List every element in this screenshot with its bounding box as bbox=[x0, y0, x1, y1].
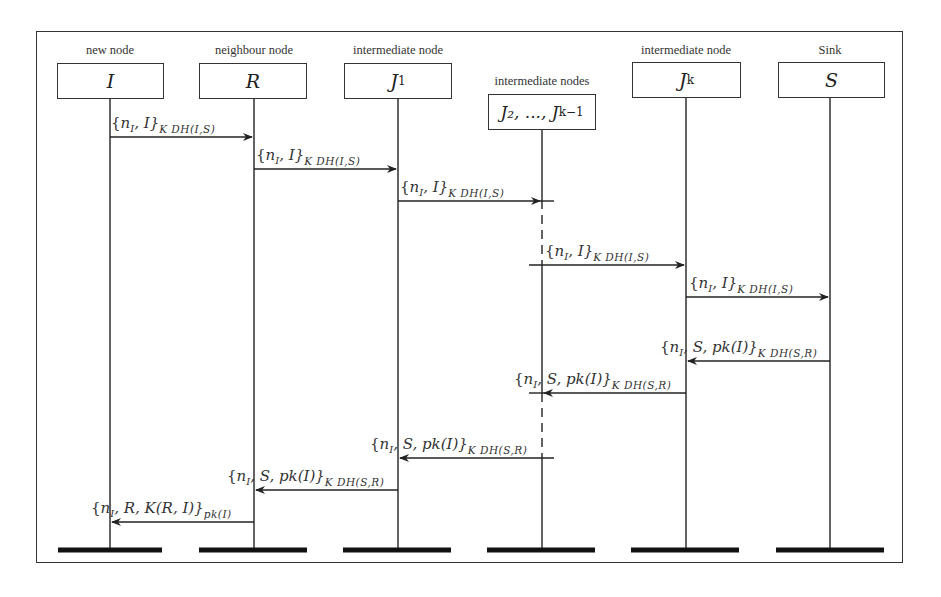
message-label-4: {nI, I}K DH(I,S) bbox=[545, 242, 649, 263]
participant-symbol: R bbox=[246, 70, 260, 92]
participant-symbol: J₂, ..., J bbox=[500, 102, 558, 122]
message-label-8: {nI, S, pk(I)}K DH(S,R) bbox=[370, 435, 527, 456]
message-label-7: {nI, S, pk(I)}K DH(S,R) bbox=[514, 370, 671, 391]
message-label-1: {nI, I}K DH(I,S) bbox=[111, 114, 215, 135]
message-label-10: {nI, R, K(R, I)}pk(I) bbox=[91, 499, 232, 520]
participant-subscript: 1 bbox=[398, 74, 406, 88]
participant-symbol: J bbox=[679, 69, 687, 91]
participant-symbol: I bbox=[107, 70, 115, 92]
message-label-3: {nI, I}K DH(I,S) bbox=[400, 178, 504, 199]
participant-box-J2-Jk1: J₂, ..., Jk−1 bbox=[488, 94, 596, 130]
message-label-6: {nI, S, pk(I)}K DH(S,R) bbox=[660, 338, 817, 359]
participant-subscript: k bbox=[687, 73, 694, 87]
participant-symbol: S bbox=[825, 69, 838, 91]
message-label-2: {nI, I}K DH(I,S) bbox=[256, 146, 360, 167]
participant-box-R: R bbox=[199, 63, 307, 99]
participant-box-S: S bbox=[778, 62, 885, 98]
message-label-9: {nI, S, pk(I)}K DH(S,R) bbox=[227, 467, 384, 488]
participant-box-J1: J1 bbox=[344, 63, 452, 99]
participant-box-I: I bbox=[57, 63, 164, 99]
participant-box-Jk: Jk bbox=[632, 62, 741, 98]
message-label-5: {nI, I}K DH(I,S) bbox=[689, 274, 793, 295]
participant-symbol: J bbox=[390, 70, 398, 92]
participant-subscript: k−1 bbox=[559, 105, 584, 119]
